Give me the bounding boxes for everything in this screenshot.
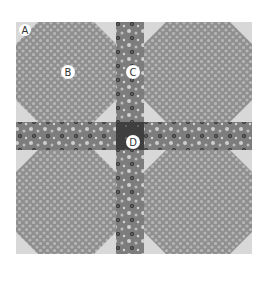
svg-text:B: B xyxy=(65,67,72,78)
svg-text:A: A xyxy=(22,25,29,36)
label-c: C xyxy=(126,65,140,79)
svg-text:D: D xyxy=(129,137,137,148)
quilt-block-diagram: A B C D xyxy=(0,0,265,284)
label-a: A xyxy=(19,24,31,36)
label-d: D xyxy=(126,135,140,149)
octagon-top-right xyxy=(144,22,252,122)
svg-text:C: C xyxy=(130,67,137,78)
label-b: B xyxy=(61,65,75,79)
octagon-bottom-left xyxy=(16,150,116,254)
octagon-bottom-right xyxy=(144,150,252,254)
